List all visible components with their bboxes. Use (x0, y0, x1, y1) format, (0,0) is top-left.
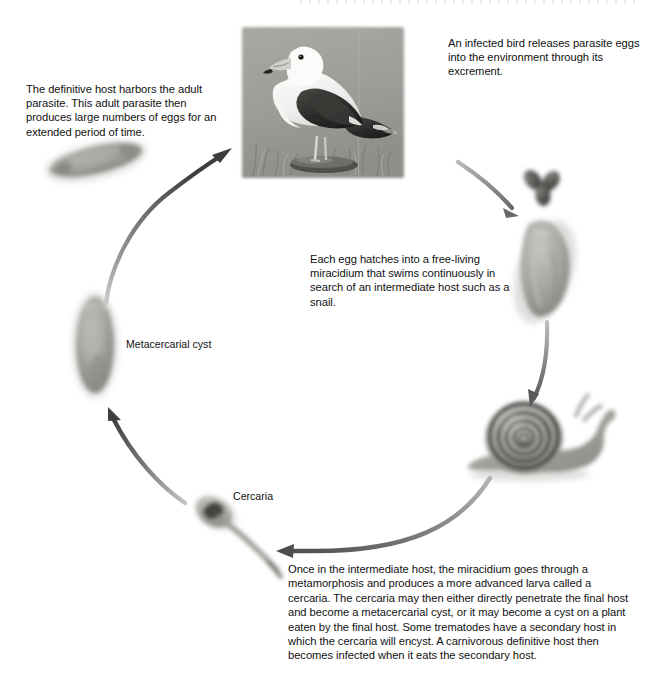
life-cycle-diagram: The definitive host harbors the adult pa… (0, 0, 649, 680)
arrow-cercaria-to-cyst (108, 407, 185, 503)
arrow-cyst-to-bird (106, 148, 232, 303)
arrow-snail-to-cercaria (276, 478, 490, 558)
caption-intermediate-host: Once in the intermediate host, the mirac… (288, 562, 636, 663)
label-metacercarial-cyst: Metacercarial cyst (126, 338, 211, 351)
caption-infected-bird: An infected bird releases parasite eggs … (448, 36, 644, 79)
adult-fluke-icon (41, 132, 150, 190)
arrow-miracidium-to-snail (528, 322, 547, 407)
caption-definitive-host: The definitive host harbors the adult pa… (26, 82, 222, 139)
caption-egg-hatches: Each egg hatches into a free-living mira… (310, 252, 520, 309)
metacercarial-cyst-icon (72, 292, 118, 398)
label-cercaria: Cercaria (233, 490, 273, 503)
seagull-photo-icon (239, 24, 407, 181)
snail-icon (467, 395, 616, 481)
arrow-bird-to-eggs (458, 162, 519, 218)
egg-cluster-icon (520, 167, 563, 207)
page-top-crop-artifact (300, 0, 640, 4)
